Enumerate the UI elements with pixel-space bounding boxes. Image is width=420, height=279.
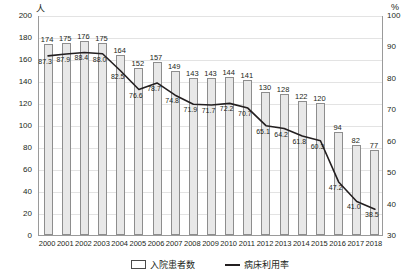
bar-label-2006: 157 [144, 53, 168, 62]
bar-label-2016: 94 [326, 123, 350, 132]
line-label-2013: 64.2 [270, 131, 292, 138]
left-axis-tick: 80 [6, 143, 32, 152]
left-axis-unit: 人 [36, 2, 45, 15]
left-axis-tick: 0 [6, 231, 32, 240]
line-label-2007: 74.8 [161, 97, 183, 104]
bar-label-2015: 120 [307, 94, 331, 103]
left-axis-tick: 160 [6, 55, 32, 64]
right-axis-tick: 30 [387, 231, 413, 240]
line-label-2017: 41.0 [343, 203, 365, 210]
left-axis-tick: 20 [6, 209, 32, 218]
right-axis-tick: 90 [387, 42, 413, 51]
x-axis-tick-2018: 2018 [362, 239, 386, 248]
left-axis-tick: 180 [6, 33, 32, 42]
left-axis-tick: 60 [6, 165, 32, 174]
chart-legend: 入院患者数 病床利用率 [0, 258, 420, 271]
right-axis-tick: 60 [387, 137, 413, 146]
bar-label-2011: 141 [235, 71, 259, 80]
right-axis-tick: 40 [387, 200, 413, 209]
left-axis-tick: 140 [6, 77, 32, 86]
line-swatch-icon [225, 264, 240, 266]
bar-swatch-icon [131, 260, 146, 269]
bar-label-2004: 164 [108, 46, 132, 55]
left-axis-tick: 100 [6, 121, 32, 130]
line-label-2006: 78.7 [143, 85, 165, 92]
right-axis-tick: 50 [387, 168, 413, 177]
chart-container: 人 % 200180160140120100806040200 10090807… [0, 0, 420, 279]
legend-item-occupancy: 病床利用率 [225, 258, 289, 271]
right-axis-tick: 80 [387, 74, 413, 83]
legend-label-inpatients: 入院患者数 [150, 258, 195, 271]
left-axis-tick: 200 [6, 11, 32, 20]
line-label-2016: 47.2 [325, 184, 347, 191]
line-label-2011: 70.7 [234, 110, 256, 117]
legend-item-inpatients: 入院患者数 [131, 258, 195, 271]
left-axis-tick: 120 [6, 99, 32, 108]
legend-label-occupancy: 病床利用率 [244, 258, 289, 271]
right-axis-tick: 100 [387, 11, 413, 20]
line-label-2003: 88.0 [89, 56, 111, 63]
line-label-2005: 76.6 [125, 92, 147, 99]
bar-label-2003: 175 [90, 34, 114, 43]
right-axis-tick: 70 [387, 105, 413, 114]
line-label-2018: 38.5 [361, 211, 383, 218]
line-label-2015: 60.3 [306, 143, 328, 150]
left-axis-tick: 40 [6, 187, 32, 196]
line-label-2004: 82.5 [107, 73, 129, 80]
bar-label-2018: 77 [362, 141, 386, 150]
